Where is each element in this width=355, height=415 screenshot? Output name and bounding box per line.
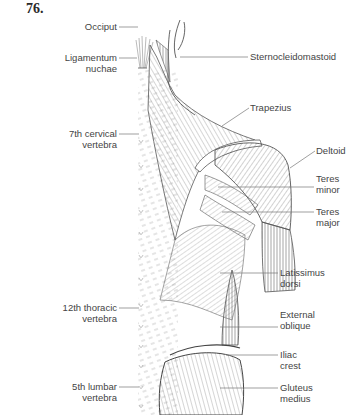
label-line: 12th thoracic [63,302,117,313]
label-5th-lumbar-vertebra: 5th lumbar vertebra [72,381,117,403]
label-line: nuchae [65,63,117,74]
label-teres-minor: Teres minor [316,173,340,195]
label-teres-major: Teres major [316,206,340,228]
label-line: Latissimus [280,267,325,278]
label-line: 7th cervical [69,128,117,139]
label-line: External [280,309,315,320]
label-line: vertebra [69,139,117,150]
label-external-oblique: External oblique [280,309,315,331]
label-line: minor [316,184,340,195]
label-sternocleidomastoid: Sternocleidomastoid [250,51,336,62]
label-ligamentum-nuchae: Ligamentum nuchae [65,52,117,74]
label-line: crest [280,360,301,371]
label-occiput: Occiput [85,21,117,32]
label-line: Deltoid [316,145,346,156]
label-line: 5th lumbar [72,381,117,392]
label-line: Gluteus [280,382,313,393]
label-line: major [316,217,340,228]
label-trapezius: Trapezius [250,102,291,113]
label-line: Teres [316,173,340,184]
label-line: Teres [316,206,340,217]
label-7th-cervical-vertebra: 7th cervical vertebra [69,128,117,150]
label-line: Ligamentum [65,52,117,63]
label-deltoid: Deltoid [316,145,346,156]
label-occiput-text: Occiput [85,21,117,32]
label-line: oblique [280,320,315,331]
back-muscles-illustration [0,0,355,415]
label-line: Iliac [280,349,301,360]
label-12th-thoracic-vertebra: 12th thoracic vertebra [63,302,117,324]
label-iliac-crest: Iliac crest [280,349,301,371]
label-line: vertebra [63,313,117,324]
label-latissimus-dorsi: Latissimus dorsi [280,267,325,289]
label-line: Trapezius [250,102,291,113]
label-line: dorsi [280,278,325,289]
label-line: medius [280,393,313,404]
label-line: Sternocleidomastoid [250,51,336,62]
gluteus-medius-shape [159,353,243,415]
label-gluteus-medius: Gluteus medius [280,382,313,404]
label-line: vertebra [72,392,117,403]
